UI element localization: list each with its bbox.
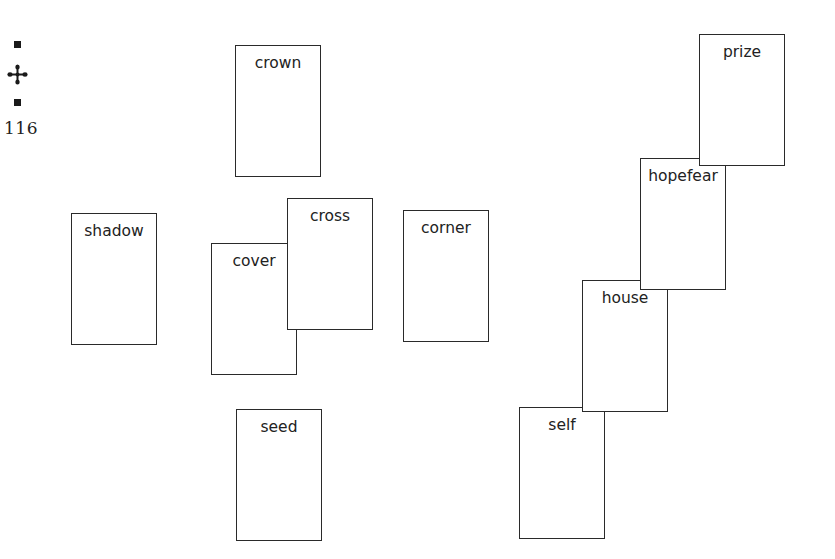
card-cross[interactable]: cross bbox=[287, 198, 373, 330]
square-handle-icon[interactable] bbox=[14, 41, 21, 48]
card-cover[interactable]: cover bbox=[211, 243, 297, 375]
card-shadow[interactable]: shadow bbox=[71, 213, 157, 345]
card-label: corner bbox=[404, 219, 488, 237]
card-house[interactable]: house bbox=[582, 280, 668, 412]
card-label: seed bbox=[237, 418, 321, 436]
page-number: 116 bbox=[4, 118, 38, 138]
card-crown[interactable]: crown bbox=[235, 45, 321, 177]
square-handle-icon[interactable] bbox=[14, 99, 21, 106]
card-hopefear[interactable]: hopefear bbox=[640, 158, 726, 290]
card-label: self bbox=[520, 416, 604, 434]
card-prize[interactable]: prize bbox=[699, 34, 785, 166]
card-seed[interactable]: seed bbox=[236, 409, 322, 541]
card-label: cover bbox=[212, 252, 296, 270]
card-corner[interactable]: corner bbox=[403, 210, 489, 342]
four-way-move-icon[interactable] bbox=[7, 64, 28, 85]
card-self[interactable]: self bbox=[519, 407, 605, 539]
card-label: crown bbox=[236, 54, 320, 72]
card-label: prize bbox=[700, 43, 784, 61]
toolbox: 116 bbox=[0, 38, 36, 148]
card-canvas[interactable]: 116 self house hopefear prize crown shad… bbox=[0, 0, 835, 559]
card-label: house bbox=[583, 289, 667, 307]
card-label: cross bbox=[288, 207, 372, 225]
card-label: hopefear bbox=[641, 167, 725, 185]
card-label: shadow bbox=[72, 222, 156, 240]
